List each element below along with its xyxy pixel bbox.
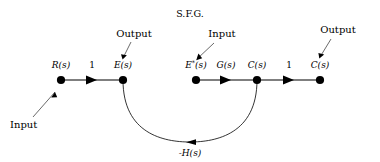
node-label-rs: R(s) (51, 60, 71, 70)
gain-label-estar-cs: G(s) (217, 60, 236, 70)
node-es[interactable] (119, 76, 127, 84)
node-label-cs1: C(s) (248, 60, 267, 70)
node-label-es: E(s) (113, 60, 133, 70)
annotation-label-input-left: Input (10, 119, 37, 130)
node-label-estar: E*(s) (184, 59, 207, 71)
sfg-diagram: S.F.G. R(s) E(s) E*(s) C(s) C(s) 1 G(s) … (0, 0, 380, 162)
node-estar[interactable] (192, 76, 200, 84)
node-cs1[interactable] (253, 76, 261, 84)
node-label-estar-suffix: (s) (195, 60, 207, 70)
gain-label-feedback: -H(s) (179, 148, 202, 158)
node-rs[interactable] (57, 76, 65, 84)
gain-label-cs-cs: 1 (286, 60, 292, 70)
node-cs2[interactable] (316, 76, 324, 84)
annotation-label-output-c: Output (320, 24, 356, 35)
annotation-label-input-estar: Input (208, 28, 235, 39)
node-label-cs2: C(s) (311, 60, 330, 70)
diagram-title: S.F.G. (176, 8, 204, 19)
gain-label-rs-es: 1 (89, 60, 95, 70)
signal-flow-graph-canvas: S.F.G. R(s) E(s) E*(s) C(s) C(s) 1 G(s) … (0, 0, 380, 162)
annotation-label-output-e: Output (116, 28, 152, 39)
